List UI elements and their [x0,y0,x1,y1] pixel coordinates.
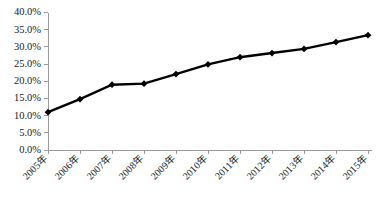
y-tick-label: 35.0% [14,24,41,35]
data-point-marker [301,46,308,53]
x-tick-label: 2005年 [20,152,50,182]
series-line [48,35,368,112]
x-tick-label: 2012年 [244,152,274,182]
data-point-marker [269,50,276,57]
y-axis: 0.0%5.0%10.0%15.0%20.0%25.0%30.0%35.0%40… [14,6,48,155]
x-tick-label: 2011年 [212,152,241,181]
line-chart: 0.0%5.0%10.0%15.0%20.0%25.0%30.0%35.0%40… [0,0,380,202]
x-tick-label: 2014年 [308,152,338,182]
x-tick-label: 2008年 [116,152,146,182]
y-tick-label: 5.0% [19,127,41,138]
x-tick-label: 2009年 [148,152,178,182]
y-tick-label: 20.0% [14,75,41,86]
x-tick-label: 2015年 [340,152,370,182]
x-axis: 2005年2006年2007年2008年2009年2010年2011年2012年… [20,150,372,182]
x-tick-label: 2006年 [52,152,82,182]
x-tick-label: 2007年 [84,152,114,182]
data-point-marker [141,80,148,87]
y-tick-label: 0.0% [19,144,41,155]
y-tick-label: 15.0% [14,92,41,103]
data-point-marker [205,61,212,68]
data-point-marker [365,32,372,39]
data-point-marker [237,54,244,61]
data-series [45,32,372,116]
y-tick-label: 40.0% [14,6,41,17]
y-tick-label: 25.0% [14,58,41,69]
data-point-marker [45,109,52,116]
x-tick-label: 2013年 [276,152,306,182]
data-point-marker [333,39,340,46]
x-tick-label: 2010年 [180,152,210,182]
chart-canvas: 0.0%5.0%10.0%15.0%20.0%25.0%30.0%35.0%40… [0,0,380,202]
y-tick-label: 10.0% [14,110,41,121]
data-point-marker [173,71,180,78]
y-tick-label: 30.0% [14,41,41,52]
